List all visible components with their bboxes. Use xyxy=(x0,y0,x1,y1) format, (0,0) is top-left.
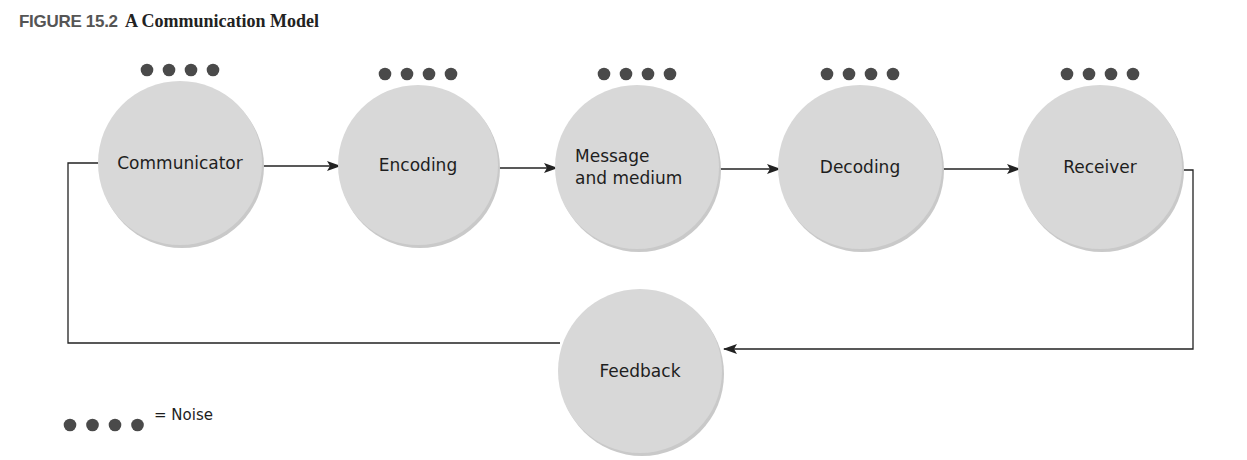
node-label-line: and medium xyxy=(575,168,682,188)
noise-dot xyxy=(598,68,611,81)
noise-dots-icon xyxy=(141,64,220,77)
node-label-line: Decoding xyxy=(820,157,900,177)
noise-dots-icon xyxy=(1061,68,1140,81)
node-label-line: Message xyxy=(575,146,650,166)
noise-dot xyxy=(207,64,220,77)
node-encoding: Encoding xyxy=(338,68,500,248)
legend-noise-dot xyxy=(109,419,122,432)
noise-dot xyxy=(821,68,834,81)
legend: = Noise xyxy=(64,406,213,431)
node-message-and-medium: Messageand medium xyxy=(555,68,721,252)
nodes-layer: CommunicatorEncodingMessageand mediumDec… xyxy=(98,64,1184,456)
figure-title: A Communication Model xyxy=(125,11,319,31)
node-label: Decoding xyxy=(820,157,900,177)
noise-dot xyxy=(1127,68,1140,81)
communication-model-diagram: FIGURE 15.2 A Communication Model Commun… xyxy=(0,0,1247,460)
noise-dot xyxy=(620,68,633,81)
node-label: Encoding xyxy=(379,155,457,175)
noise-dot xyxy=(445,68,458,81)
node-label-line: Encoding xyxy=(379,155,457,175)
legend-noise-dot xyxy=(86,419,99,432)
legend-noise-dot xyxy=(131,419,144,432)
node-circle xyxy=(555,85,719,249)
noise-dot xyxy=(843,68,856,81)
noise-dots-icon xyxy=(379,68,458,81)
noise-dot xyxy=(664,68,677,81)
node-label: Communicator xyxy=(117,153,242,173)
node-label: Receiver xyxy=(1063,157,1137,177)
node-feedback: Feedback xyxy=(558,289,724,456)
node-label-line: Receiver xyxy=(1063,157,1137,177)
node-label-line: Communicator xyxy=(117,153,242,173)
noise-dot xyxy=(379,68,392,81)
legend-noise-dots xyxy=(64,419,144,432)
noise-dot xyxy=(642,68,655,81)
node-communicator: Communicator xyxy=(98,64,264,248)
noise-dot xyxy=(163,64,176,77)
node-label-line: Feedback xyxy=(600,361,681,381)
noise-dot xyxy=(887,68,900,81)
legend-noise-dot xyxy=(64,419,77,432)
node-label: Feedback xyxy=(600,361,681,381)
noise-dot xyxy=(423,68,436,81)
noise-dot xyxy=(185,64,198,77)
noise-dot xyxy=(141,64,154,77)
noise-dot xyxy=(865,68,878,81)
noise-dot xyxy=(1105,68,1118,81)
node-receiver: Receiver xyxy=(1018,68,1184,252)
noise-dot xyxy=(401,68,414,81)
noise-dots-icon xyxy=(821,68,900,81)
node-decoding: Decoding xyxy=(778,68,944,252)
figure-label: FIGURE 15.2 xyxy=(19,12,118,31)
noise-dot xyxy=(1083,68,1096,81)
legend-text: = Noise xyxy=(154,406,213,424)
noise-dot xyxy=(1061,68,1074,81)
noise-dots-icon xyxy=(598,68,677,81)
